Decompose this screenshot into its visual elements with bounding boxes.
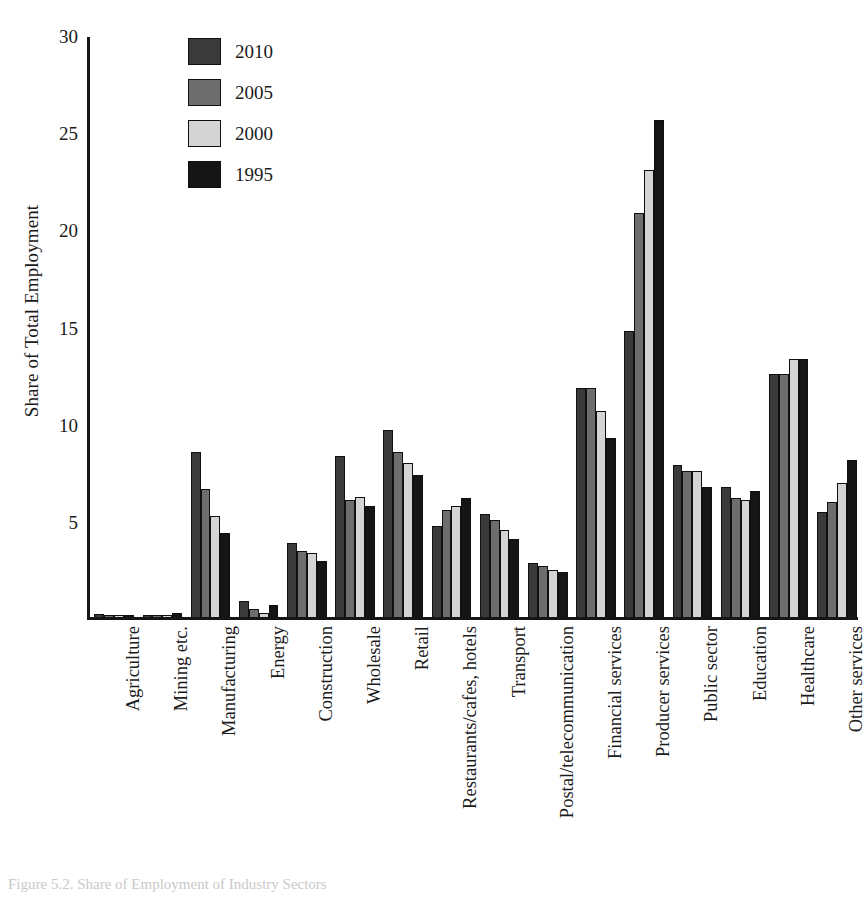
bar <box>94 614 104 617</box>
x-tick-label: Construction <box>317 626 336 722</box>
bar <box>789 359 799 617</box>
bar <box>644 170 654 617</box>
bar <box>576 388 586 617</box>
legend-label: 2000 <box>235 124 273 143</box>
y-tick-label: 10 <box>59 415 78 437</box>
bar-group <box>673 37 713 617</box>
bar <box>393 452 403 617</box>
bar <box>413 475 423 617</box>
bar <box>259 613 269 617</box>
bar <box>682 471 692 617</box>
bar-group <box>94 37 134 617</box>
x-tick-label: Education <box>751 626 770 701</box>
x-tick-label: Public sector <box>702 626 721 722</box>
legend-label: 1995 <box>235 165 273 184</box>
bar <box>124 615 134 617</box>
bar <box>220 533 230 617</box>
x-tick-label: Retail <box>413 626 432 670</box>
bar <box>249 609 259 617</box>
bar <box>779 374 789 617</box>
y-tick-label: 25 <box>59 123 78 145</box>
bar <box>201 489 211 617</box>
bar <box>210 516 220 617</box>
bar <box>355 497 365 617</box>
bar-group <box>287 37 327 617</box>
x-tick-label: Manufacturing <box>220 626 239 736</box>
bar <box>538 566 548 617</box>
bar <box>345 500 355 617</box>
x-tick-label: Restaurants/cafes, hotels <box>461 626 480 809</box>
x-axis-line <box>87 617 858 620</box>
bar <box>673 465 683 617</box>
x-tick-label: Other services <box>847 626 866 732</box>
bar <box>152 615 162 617</box>
legend-swatch <box>188 161 221 188</box>
legend-label: 2010 <box>235 42 273 61</box>
bar <box>500 530 510 617</box>
bar <box>307 553 317 617</box>
bar <box>731 498 741 617</box>
bar <box>721 487 731 617</box>
bar <box>162 615 172 617</box>
legend-entry: 1995 <box>188 161 273 188</box>
bar <box>461 498 471 617</box>
bar <box>432 526 442 617</box>
bar <box>143 615 153 617</box>
bar <box>827 502 837 617</box>
bar-group <box>143 37 183 617</box>
legend-entry: 2010 <box>188 38 273 65</box>
bar <box>548 570 558 617</box>
bar <box>847 460 857 617</box>
legend-swatch <box>188 38 221 65</box>
bar <box>383 430 393 617</box>
bar <box>558 572 568 617</box>
bar <box>586 388 596 617</box>
bar <box>239 601 249 617</box>
employment-share-bar-chart: Share of Total Employment 51015202530 20… <box>0 0 867 897</box>
bar <box>191 452 201 617</box>
bar <box>114 615 124 617</box>
bar-group <box>528 37 568 617</box>
x-tick-label: Energy <box>269 626 288 679</box>
bar <box>692 471 702 617</box>
x-tick-label: Transport <box>510 626 529 697</box>
bar <box>317 561 327 617</box>
y-tick-label: 20 <box>59 220 78 242</box>
bar <box>837 483 847 617</box>
x-tick-label: Postal/telecommunication <box>558 626 577 818</box>
y-tick-label: 15 <box>59 318 78 340</box>
bar <box>654 120 664 617</box>
y-tick-label: 5 <box>69 512 79 534</box>
bar <box>817 512 827 617</box>
bar <box>287 543 297 617</box>
bar <box>606 438 616 617</box>
legend: 2010200520001995 <box>188 38 273 188</box>
x-tick-label: Mining etc. <box>172 626 191 711</box>
bar <box>490 520 500 617</box>
bar-group <box>383 37 423 617</box>
x-tick-label: Wholesale <box>365 626 384 704</box>
legend-swatch <box>188 120 221 147</box>
legend-entry: 2005 <box>188 79 273 106</box>
bar <box>104 615 114 617</box>
x-tick-label: Financial services <box>606 626 625 759</box>
bar-group <box>624 37 664 617</box>
bar <box>365 506 375 617</box>
bar-group <box>769 37 809 617</box>
bar-group <box>480 37 520 617</box>
x-tick-label: Healthcare <box>799 626 818 706</box>
bar <box>769 374 779 617</box>
bar-group <box>576 37 616 617</box>
bar <box>624 331 634 617</box>
bar-group <box>817 37 857 617</box>
y-tick-label: 30 <box>59 26 78 48</box>
bar <box>528 563 538 617</box>
legend-entry: 2000 <box>188 120 273 147</box>
bar <box>335 456 345 617</box>
bar-group <box>335 37 375 617</box>
bar <box>451 506 461 617</box>
x-tick-label: Agriculture <box>124 626 143 711</box>
bar <box>702 487 712 617</box>
bar <box>297 551 307 617</box>
legend-swatch <box>188 79 221 106</box>
